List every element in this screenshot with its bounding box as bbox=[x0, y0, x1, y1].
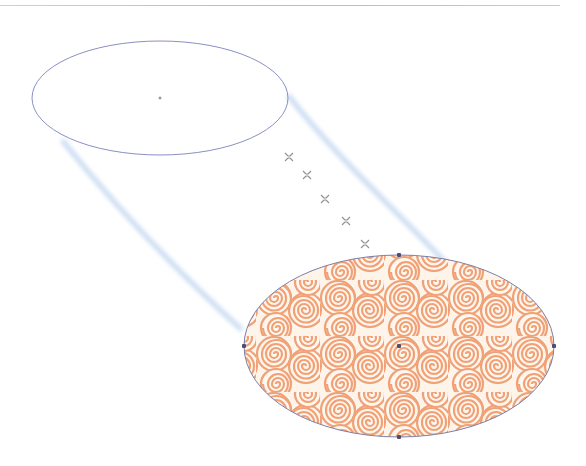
anchor-point-bottom bbox=[397, 435, 401, 439]
blend-step-icon bbox=[303, 171, 311, 179]
anchor-point-top bbox=[397, 253, 401, 257]
anchor-point-center bbox=[397, 344, 401, 348]
blend-edge-right bbox=[288, 95, 445, 262]
blend-step-icon bbox=[285, 153, 293, 161]
blend-step-icon bbox=[361, 240, 369, 248]
target-ellipse[interactable] bbox=[242, 253, 556, 439]
blend-step-markers bbox=[285, 153, 369, 248]
blend-edge-left bbox=[62, 140, 242, 330]
blend-step-icon bbox=[321, 195, 329, 203]
blend-artwork bbox=[0, 0, 586, 466]
source-ellipse[interactable] bbox=[32, 41, 288, 155]
center-point-icon bbox=[159, 97, 162, 100]
anchor-point-right bbox=[552, 344, 556, 348]
blend-step-icon bbox=[342, 217, 350, 225]
anchor-point-left bbox=[242, 344, 246, 348]
